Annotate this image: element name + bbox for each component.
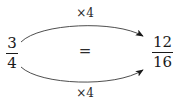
denominator-multiplier-label: ×4 [65, 87, 105, 99]
left-fraction-denominator: 4 [6, 56, 18, 71]
right-fraction-numerator: 12 [152, 35, 173, 50]
right-fraction: 12 16 [152, 35, 173, 70]
equals-sign: = [74, 44, 96, 59]
numerator-multiplier-label: ×4 [65, 7, 105, 19]
left-fraction: 3 4 [6, 36, 18, 71]
numerator-arrow-curve [21, 26, 143, 42]
denominator-arrow-curve [21, 67, 143, 82]
equivalent-fraction-diagram: ×4 3 4 = 12 16 ×4 [0, 0, 173, 107]
left-fraction-numerator: 3 [6, 36, 18, 51]
right-fraction-denominator: 16 [152, 55, 173, 70]
